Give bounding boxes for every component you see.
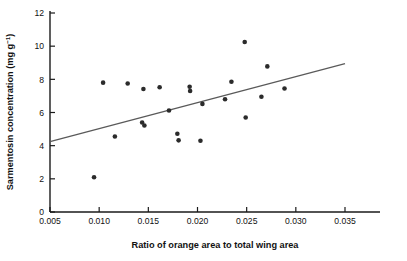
data-point	[125, 81, 130, 86]
data-point	[265, 64, 270, 69]
axis-spines	[50, 11, 380, 212]
data-point	[187, 84, 192, 89]
y-tick-label: 12	[34, 8, 44, 18]
y-axis-title-main: Sarmentosin concentration (mg g	[5, 44, 15, 191]
data-point	[200, 102, 205, 107]
data-point	[259, 94, 264, 99]
data-point	[198, 138, 203, 143]
data-point	[157, 85, 162, 90]
data-point	[142, 123, 147, 128]
data-point	[229, 80, 234, 85]
trendline	[50, 64, 345, 142]
y-tick-label: 2	[39, 174, 44, 184]
x-axis-ticks: 0.0050.0100.0150.0200.0250.0300.035	[39, 207, 356, 226]
data-point	[113, 134, 118, 139]
x-tick-label: 0.030	[285, 216, 307, 226]
data-points	[92, 40, 287, 180]
data-point	[175, 131, 180, 136]
x-tick-label: 0.015	[138, 216, 160, 226]
y-tick-label: 10	[34, 41, 44, 51]
data-point	[188, 89, 193, 94]
data-point	[141, 87, 146, 92]
y-tick-label: 0	[39, 207, 44, 217]
scatter-plot: 0.0050.0100.0150.0200.0250.0300.035 0246…	[0, 0, 407, 261]
data-point	[243, 115, 248, 120]
x-tick-label: 0.010	[88, 216, 110, 226]
data-point	[242, 40, 247, 45]
data-point	[101, 80, 106, 85]
data-point	[167, 108, 172, 113]
x-tick-label: 0.020	[187, 216, 209, 226]
data-point	[282, 86, 287, 91]
chart-figure: 0.0050.0100.0150.0200.0250.0300.035 0246…	[0, 0, 407, 261]
x-tick-label: 0.025	[236, 216, 258, 226]
x-tick-label: 0.035	[334, 216, 356, 226]
y-axis-ticks: 024681012	[34, 8, 55, 217]
regression-line	[50, 64, 345, 142]
x-tick-label: 0.005	[39, 216, 61, 226]
y-tick-label: 8	[39, 75, 44, 85]
y-axis-title: Sarmentosin concentration (mg g−1)	[4, 34, 15, 191]
data-point	[176, 138, 181, 143]
x-axis-title: Ratio of orange area to total wing area	[132, 240, 300, 250]
data-point	[92, 175, 97, 180]
y-axis-title-close: )	[5, 34, 15, 37]
y-tick-label: 6	[39, 108, 44, 118]
data-point	[223, 97, 228, 102]
y-tick-label: 4	[39, 141, 44, 151]
